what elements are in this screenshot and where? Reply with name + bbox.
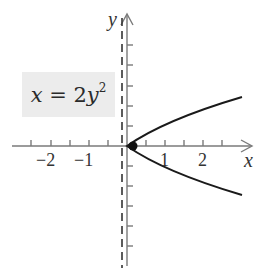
x-axis-label: x: [244, 151, 253, 169]
y-axis: [121, 14, 133, 266]
equation-exponent: 2: [99, 81, 107, 95]
equation-lhs: x: [31, 83, 43, 107]
parabola-diagram: x = 2y2 y x −2 −1 1 2: [0, 0, 270, 269]
focus-point: [129, 142, 138, 151]
equation-var: y: [87, 83, 99, 107]
equation-label-box: x = 2y2: [22, 72, 115, 117]
y-axis-label: y: [108, 10, 117, 28]
x-tick-label: 1: [160, 151, 169, 169]
equation-eq: = 2: [43, 83, 87, 107]
graph-canvas: [0, 0, 270, 269]
x-tick-label: 2: [198, 151, 207, 169]
x-tick-label: −2: [36, 151, 55, 169]
equation-text: x = 2y2: [31, 83, 107, 107]
x-tick-label: −1: [74, 151, 93, 169]
